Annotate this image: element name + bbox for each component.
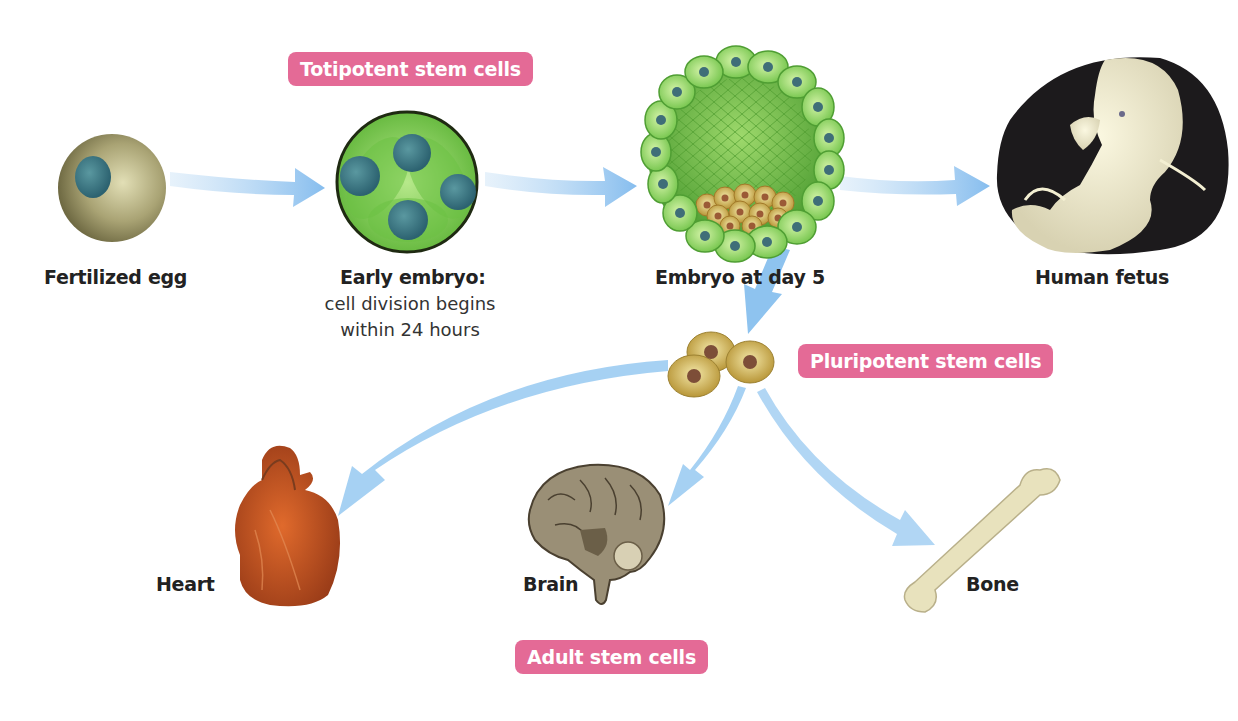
pluripotent-cells-icon (668, 332, 774, 397)
bone-label: Bone (966, 573, 1019, 595)
totipotent-badge: Totipotent stem cells (288, 52, 533, 86)
brain-label: Brain (523, 573, 578, 595)
heart-icon (235, 446, 340, 607)
early-embryo-label: Early embryo: (340, 266, 480, 288)
early-embryo-icon (334, 112, 481, 252)
early-embryo-sublabel-1: cell division begins (320, 292, 500, 316)
fertilized-egg-label: Fertilized egg (44, 266, 187, 288)
arrow-egg-to-embryo (170, 168, 325, 207)
fertilized-egg-icon (58, 134, 166, 242)
arrow-day5-to-pluripotent (744, 246, 790, 334)
adult-badge: Adult stem cells (515, 640, 708, 674)
human-fetus-label: Human fetus (1035, 266, 1169, 288)
arrow-pluripotent-to-bone (757, 388, 935, 546)
embryo-day5-label: Embryo at day 5 (655, 266, 825, 288)
heart-label: Heart (156, 573, 215, 595)
early-embryo-sublabel-2: within 24 hours (320, 318, 500, 342)
arrow-pluripotent-to-brain (668, 386, 746, 506)
arrow-embryo-to-day5 (485, 167, 637, 207)
fetus-icon (997, 57, 1229, 254)
pluripotent-badge: Pluripotent stem cells (798, 344, 1053, 378)
blastocyst-icon (641, 46, 844, 262)
arrow-day5-to-fetus (840, 166, 990, 206)
